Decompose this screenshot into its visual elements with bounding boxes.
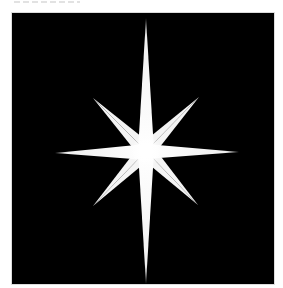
star-core xyxy=(139,144,153,158)
clipped-text-remnant xyxy=(14,1,80,3)
star-image-panel xyxy=(12,13,274,284)
clipped-caption-fragment xyxy=(14,0,84,4)
star-icon xyxy=(12,13,274,284)
